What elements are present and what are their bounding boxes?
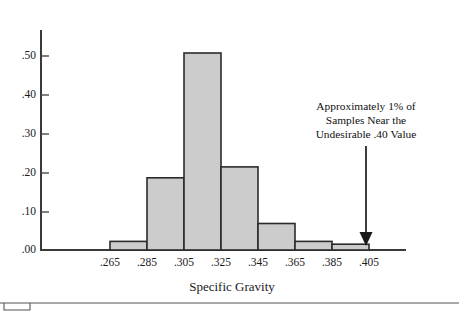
y-tick-label-30: .30	[22, 127, 37, 139]
x-tick-label-345: .345	[248, 256, 268, 268]
y-tick-marks	[41, 56, 49, 212]
bar-bin-305-325	[184, 53, 221, 250]
x-tick-labels: .265 .285 .305 .325 .345 .365 .385 .405	[100, 256, 379, 268]
bars-group	[110, 53, 369, 250]
bar-bin-265-285	[110, 241, 147, 250]
annotation-line-1: Approximately 1% of	[316, 100, 416, 112]
y-tick-label-50: .50	[22, 49, 37, 61]
y-tick-label-10: .10	[22, 205, 37, 217]
y-tick-label-20: .20	[22, 166, 37, 178]
annotation-line-3: Undesirable .40 Value	[316, 128, 417, 140]
bar-bin-285-305	[147, 178, 184, 250]
bar-bin-365-385	[295, 241, 332, 250]
x-tick-label-365: .365	[285, 256, 305, 268]
y-tick-label-40: .40	[22, 88, 37, 100]
page-divider	[0, 303, 459, 310]
y-tick-label-00: .00	[22, 243, 37, 255]
annotation-callout: Approximately 1% of Samples Near the Und…	[316, 100, 417, 246]
x-tick-label-385: .385	[322, 256, 342, 268]
y-tick-labels: .50 .40 .30 .20 .10 .00	[22, 49, 37, 255]
x-tick-label-325: .325	[211, 256, 231, 268]
x-axis-title: Specific Gravity	[189, 279, 275, 294]
x-tick-label-405: .405	[359, 256, 379, 268]
bar-bin-385-405	[332, 244, 369, 250]
x-tick-label-305: .305	[174, 256, 194, 268]
x-tick-label-265: .265	[100, 256, 120, 268]
bar-bin-345-365	[258, 224, 295, 251]
histogram-svg: .50 .40 .30 .20 .10 .00 .265 .285 .305 .…	[0, 0, 459, 314]
histogram-figure: .50 .40 .30 .20 .10 .00 .265 .285 .305 .…	[0, 0, 459, 314]
x-tick-label-285: .285	[137, 256, 157, 268]
annotation-line-2: Samples Near the	[326, 114, 406, 126]
bar-bin-325-345	[221, 167, 258, 250]
